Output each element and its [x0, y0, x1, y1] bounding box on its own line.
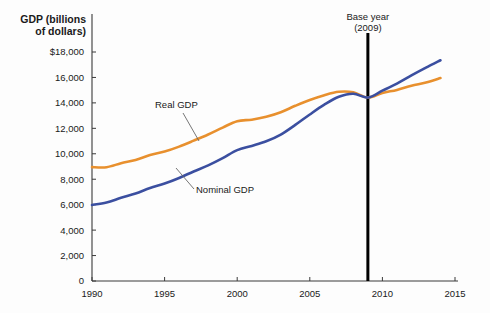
x-tick-label: 2015 [444, 288, 465, 299]
x-axis-ticks: 199019952000200520102015 [81, 277, 465, 299]
y-tick-label: 10,000 [55, 148, 84, 159]
y-tick-label: 12,000 [55, 123, 84, 134]
y-axis-title-line2: of dollars) [35, 25, 86, 37]
real-gdp-label: Real GDP [155, 99, 198, 110]
real-gdp-leader-line [183, 113, 199, 141]
y-axis-ticks: 02,0004,0006,0008,00010,00012,00014,0001… [50, 46, 96, 286]
x-tick-label: 2010 [372, 288, 393, 299]
gdp-line-chart: GDP (billions of dollars) 02,0004,0006,0… [0, 0, 490, 313]
y-tick-label: 4,000 [60, 225, 84, 236]
real-gdp-line [92, 78, 440, 167]
y-tick-label: 0 [79, 275, 84, 286]
y-tick-label: $18,000 [50, 46, 84, 57]
y-tick-label: 8,000 [60, 174, 84, 185]
chart-page: GDP (billions of dollars) 02,0004,0006,0… [0, 0, 490, 313]
base-year-label-line1: Base year [346, 11, 389, 22]
x-tick-label: 1990 [81, 288, 102, 299]
y-tick-label: 16,000 [55, 72, 84, 83]
x-tick-label: 2005 [299, 288, 320, 299]
x-tick-label: 2000 [227, 288, 248, 299]
y-tick-label: 2,000 [60, 250, 84, 261]
nominal-gdp-callout: Nominal GDP [176, 168, 254, 195]
base-year-marker: Base year (2009) [346, 11, 389, 281]
y-tick-label: 6,000 [60, 199, 84, 210]
nominal-gdp-line [92, 60, 440, 205]
x-tick-label: 1995 [154, 288, 175, 299]
real-gdp-callout: Real GDP [155, 99, 199, 141]
nominal-gdp-label: Nominal GDP [196, 184, 254, 195]
y-tick-label: 14,000 [55, 97, 84, 108]
y-axis-title-line1: GDP (billions [20, 13, 86, 25]
base-year-label-line2: (2009) [354, 22, 381, 33]
